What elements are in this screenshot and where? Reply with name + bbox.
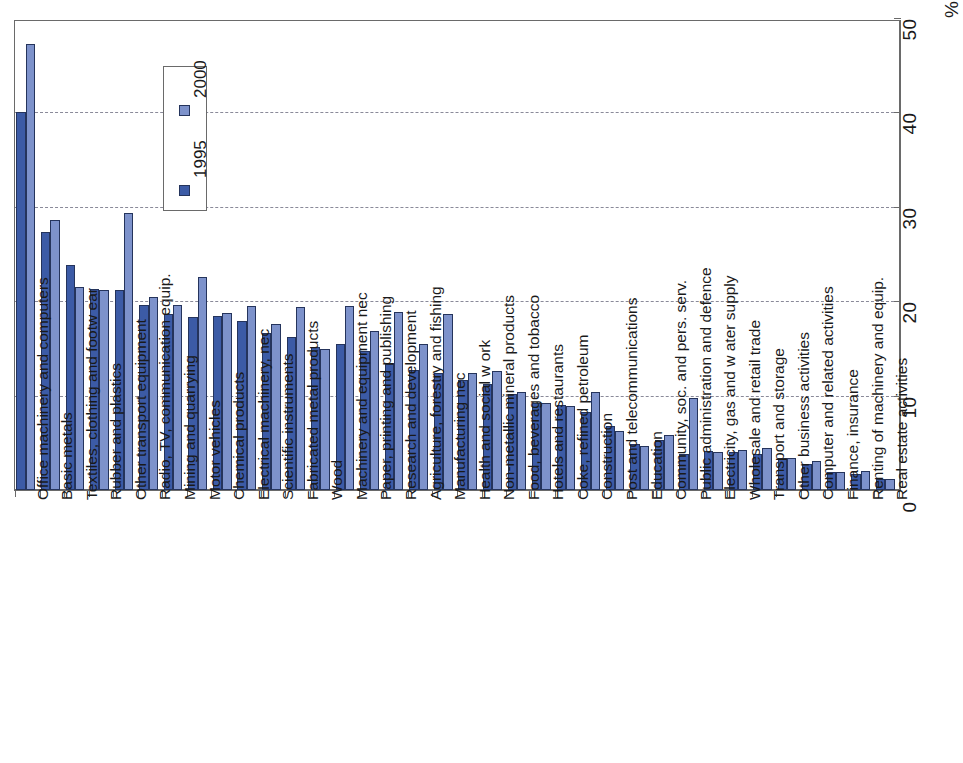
category-label: Electrical machinery, nec — [256, 329, 272, 500]
category-label: Manufacturing nec — [452, 372, 468, 500]
value-tick-label: 20 — [900, 278, 919, 324]
category-label: Other business activities — [796, 332, 812, 500]
category-label: Community, soc. and pers. serv. — [673, 280, 689, 500]
legend-label: 1995 — [192, 140, 209, 178]
category-label: Paper, printing and publishing — [378, 296, 394, 500]
category-label: Public administration and defence — [698, 267, 714, 500]
value-tick-label: 50 — [900, 0, 919, 41]
category-label: Other transport equipment — [133, 319, 149, 500]
category-label: Chemical products — [231, 372, 247, 500]
category-label: Coke, refined petroleum — [575, 335, 591, 500]
category-label: Textiles, clothing and footw ear — [84, 288, 100, 500]
chart-legend: 19952000 — [163, 66, 207, 211]
category-label: Education — [649, 431, 665, 500]
category-label: Wood — [329, 460, 345, 500]
chart-page: 01020304050 % Office machinery and compu… — [0, 0, 963, 763]
value-tick-label: 30 — [900, 183, 919, 229]
category-label: Machinery and equipment nec — [354, 292, 370, 500]
category-label: Mining and quarrying — [182, 355, 198, 500]
category-label: Rubber and plastics — [108, 363, 124, 500]
category-label: Research and development — [403, 310, 419, 500]
category-label: Motor vehicles — [207, 400, 223, 500]
category-label: Hotels and restaurants — [550, 344, 566, 500]
category-label: Electricity, gas and w ater supply — [722, 275, 738, 500]
category-label: Health and social w ork — [477, 340, 493, 500]
category-label: Real estate activities — [894, 358, 910, 500]
legend-swatch-1995 — [179, 185, 190, 196]
bar-1995 — [16, 112, 25, 490]
category-label: Agriculture, forestry and fishing — [428, 286, 444, 500]
category-label: Scientific instruments — [280, 354, 296, 500]
category-label: Non-metallic mineral products — [501, 295, 517, 500]
category-label: Construction — [599, 413, 615, 500]
legend-label: 2000 — [192, 60, 209, 98]
category-label: Office machinery and computers — [35, 277, 51, 500]
category-label: Radio, TV, communication equip. — [157, 273, 173, 500]
category-label: Wholesale and retail trade — [747, 320, 763, 500]
category-label: Fabricated metal products — [305, 321, 321, 500]
category-label: Computer and related activities — [820, 286, 836, 500]
category-label: Renting of machinery and equip. — [870, 277, 886, 500]
category-label: Transport and storage — [771, 348, 787, 500]
axis-unit-label: % — [941, 1, 963, 18]
category-label: Post and telecommunications — [624, 298, 640, 500]
category-label: Basic metals — [59, 412, 75, 500]
category-label: Food, beverages and tobacco — [526, 295, 542, 500]
legend-swatch-2000 — [179, 105, 190, 116]
category-tick — [15, 491, 16, 497]
value-tick-label: 40 — [900, 89, 919, 135]
category-label: Finance, insurance — [845, 369, 861, 500]
